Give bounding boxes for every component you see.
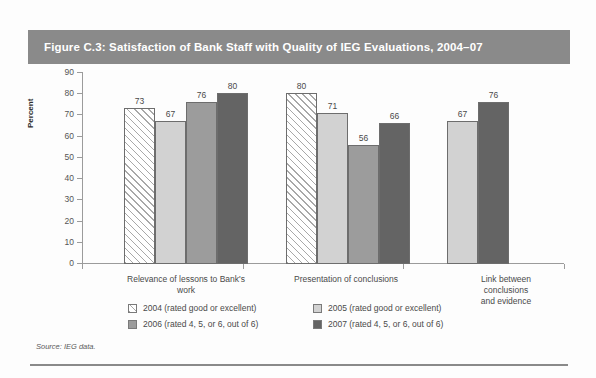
legend-item-2007[interactable]: 2007 (rated 4, 5, or 6, out of 6)	[313, 319, 443, 329]
bar-2007-relevance[interactable]	[217, 93, 248, 264]
legend-label-2004: 2004 (rated good or excellent)	[143, 303, 256, 313]
category-label-relevance: Relevance of lessons to Bank's work	[127, 274, 245, 296]
y-axis-tick	[77, 114, 82, 115]
y-tick-label: 70	[65, 109, 74, 119]
y-axis-tick	[77, 157, 82, 158]
y-tick-label: 30	[65, 194, 74, 204]
y-axis-title: Percent	[26, 114, 35, 128]
bar-value-label: 76	[197, 90, 206, 100]
category-label-presentation: Presentation of conclusions	[294, 274, 398, 285]
figure-title-bar: Figure C.3: Satisfaction of Bank Staff w…	[28, 30, 570, 64]
category-label-line1: Link between conclusions	[481, 274, 531, 295]
legend-item-2004[interactable]: 2004 (rated good or excellent)	[128, 303, 256, 313]
y-axis-tick	[77, 93, 82, 94]
bars-layer: 73 67 76 80 80 71 56 66 67 76	[83, 72, 564, 264]
x-axis-tick	[82, 264, 83, 269]
bar-2006-presentation[interactable]	[348, 145, 379, 265]
y-axis-tick	[77, 72, 82, 73]
figure-title: Figure C.3: Satisfaction of Bank Staff w…	[28, 41, 483, 53]
bar-value-label: 80	[228, 81, 237, 91]
legend-item-2006[interactable]: 2006 (rated 4, 5, or 6, out of 6)	[128, 319, 258, 329]
bar-2007-link[interactable]	[478, 102, 509, 264]
bar-value-label: 73	[135, 96, 144, 106]
y-axis-tick	[77, 136, 82, 137]
x-axis-tick	[243, 264, 244, 269]
bar-2005-presentation[interactable]	[317, 113, 348, 265]
legend: 2004 (rated good or excellent) 2005 (rat…	[128, 303, 528, 335]
bar-value-label: 71	[328, 101, 337, 111]
legend-swatch-2006-icon	[128, 320, 137, 329]
legend-swatch-2005-icon	[313, 304, 322, 313]
bar-2007-presentation[interactable]	[379, 123, 410, 264]
bar-value-label: 56	[359, 133, 368, 143]
y-tick-label: 40	[65, 173, 74, 183]
bar-2006-relevance[interactable]	[186, 102, 217, 264]
category-label-line1: Presentation of conclusions	[294, 274, 398, 284]
bar-2004-relevance[interactable]	[124, 108, 155, 264]
y-tick-label: 20	[65, 216, 74, 226]
figure-container: Figure C.3: Satisfaction of Bank Staff w…	[0, 0, 596, 378]
y-tick-label: 10	[65, 237, 74, 247]
bar-value-label: 80	[297, 81, 306, 91]
x-axis-tick	[564, 264, 565, 269]
y-tick-label: 90	[65, 67, 74, 77]
y-tick-label: 50	[65, 152, 74, 162]
bar-value-label: 76	[489, 90, 498, 100]
bar-value-label: 67	[458, 109, 467, 119]
y-tick-label: 0	[69, 258, 74, 268]
legend-label-2005: 2005 (rated good or excellent)	[328, 303, 441, 313]
category-label-line2: work	[177, 285, 195, 295]
legend-item-2005[interactable]: 2005 (rated good or excellent)	[313, 303, 441, 313]
bar-value-label: 66	[390, 111, 399, 121]
bar-2005-relevance[interactable]	[155, 121, 186, 264]
y-axis-tick	[77, 178, 82, 179]
legend-swatch-2004-icon	[128, 304, 137, 313]
y-axis-tick	[77, 199, 82, 200]
y-axis-tick-labels: 90 80 70 60 50 40 30 20 10 0	[48, 72, 74, 264]
legend-label-2006: 2006 (rated 4, 5, or 6, out of 6)	[143, 319, 258, 329]
bar-2004-presentation[interactable]	[286, 93, 317, 264]
category-label-line1: Relevance of lessons to Bank's	[127, 274, 245, 284]
y-tick-label: 80	[65, 88, 74, 98]
plot-area: Percent 90 80 70 60 50 40 30 20 10 0	[28, 72, 570, 272]
y-axis-tick	[77, 242, 82, 243]
y-tick-label: 60	[65, 131, 74, 141]
bar-2005-link[interactable]	[447, 121, 478, 264]
source-note: Source: IEG data.	[36, 342, 96, 351]
x-axis-tick	[403, 264, 404, 269]
legend-label-2007: 2007 (rated 4, 5, or 6, out of 6)	[328, 319, 443, 329]
bottom-divider	[30, 364, 568, 366]
x-axis-category-labels: Relevance of lessons to Bank's work Pres…	[28, 274, 570, 302]
legend-swatch-2007-icon	[313, 320, 322, 329]
y-axis-tick	[77, 221, 82, 222]
bar-value-label: 67	[166, 109, 175, 119]
